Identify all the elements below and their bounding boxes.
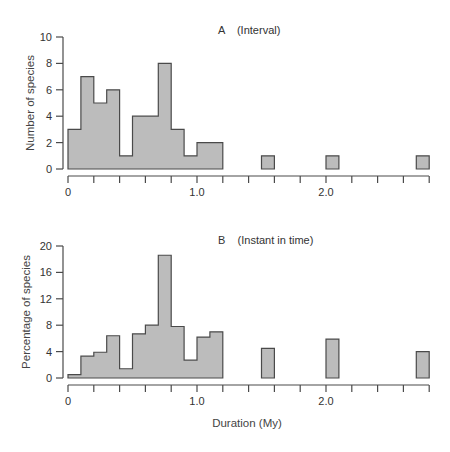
panel-b-histogram-bar bbox=[326, 339, 339, 378]
y-tick-label: 10 bbox=[40, 31, 52, 43]
x-tick-label: 0 bbox=[65, 395, 71, 407]
y-tick-label: 0 bbox=[46, 372, 52, 384]
y-tick-label: 4 bbox=[46, 110, 52, 122]
panel-a-histogram-bar bbox=[68, 63, 223, 169]
x-tick-label: 2.0 bbox=[318, 186, 333, 198]
y-tick-label: 8 bbox=[46, 319, 52, 331]
y-tick-label: 12 bbox=[40, 293, 52, 305]
x-tick-label: 0 bbox=[65, 186, 71, 198]
panel-b-title: B (Instant in time) bbox=[218, 234, 313, 246]
panel-a-bars bbox=[68, 63, 429, 169]
histogram-figure: A (Interval) Number of species 0246810 0… bbox=[0, 0, 450, 452]
panel-b-histogram-bar bbox=[262, 348, 275, 378]
y-tick-label: 0 bbox=[46, 163, 52, 175]
y-tick-label: 2 bbox=[46, 137, 52, 149]
panel-a-histogram-bar bbox=[262, 156, 275, 169]
panel-a-x-ticks: 01.02.0 bbox=[65, 176, 429, 198]
y-tick-label: 16 bbox=[40, 266, 52, 278]
panel-b-ylabel: Percentage of species bbox=[20, 255, 32, 369]
panel-b-y-ticks: 048121620 bbox=[40, 240, 63, 384]
panel-b-xlabel: Duration (My) bbox=[212, 417, 282, 429]
panel-a-ylabel: Number of species bbox=[24, 55, 36, 151]
panel-a-histogram-bar bbox=[326, 156, 339, 169]
y-tick-label: 6 bbox=[46, 84, 52, 96]
panel-b-bars bbox=[68, 255, 429, 378]
panel-a-y-ticks: 0246810 bbox=[40, 31, 63, 175]
panel-b-histogram-bar bbox=[416, 352, 429, 378]
panel-b-instant: B (Instant in time) Percentage of specie… bbox=[20, 234, 429, 429]
x-tick-label: 2.0 bbox=[318, 395, 333, 407]
panel-a-histogram-bar bbox=[416, 156, 429, 169]
y-tick-label: 4 bbox=[46, 346, 52, 358]
panel-a-title: A (Interval) bbox=[218, 24, 280, 36]
panel-b-histogram-bar bbox=[68, 255, 223, 378]
panel-a-interval: A (Interval) Number of species 0246810 0… bbox=[24, 24, 429, 198]
x-tick-label: 1.0 bbox=[189, 186, 204, 198]
y-tick-label: 8 bbox=[46, 57, 52, 69]
y-tick-label: 20 bbox=[40, 240, 52, 252]
x-tick-label: 1.0 bbox=[189, 395, 204, 407]
panel-b-x-ticks: 01.02.0 bbox=[65, 385, 429, 407]
